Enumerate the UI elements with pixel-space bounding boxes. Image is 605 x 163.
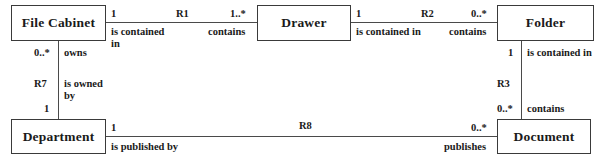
r7-relationship-label: R7 [34,78,47,90]
r8-right-multiplicity: 0..* [471,122,487,134]
r1-right-multiplicity: 1..* [230,8,246,20]
relationship-line-r8 [106,136,497,137]
entity-folder[interactable]: Folder [497,5,594,41]
r8-right-role: publishes [444,141,486,153]
r7-bottom-role: is owned by [64,78,114,101]
r8-left-role: is published by [111,141,178,153]
r2-right-multiplicity: 0..* [471,8,487,20]
r7-top-role: owns [64,47,87,59]
relationship-line-r7 [58,41,59,119]
r3-top-role: is contained in [527,47,592,59]
entity-file-cabinet[interactable]: File Cabinet [11,5,106,41]
r2-left-role: is contained in [356,26,421,38]
r3-bottom-multiplicity: 0..* [497,103,513,115]
r8-relationship-label: R8 [299,120,312,132]
r2-relationship-label: R2 [421,8,434,20]
r2-left-multiplicity: 1 [356,8,361,20]
relationship-line-r2 [351,22,497,23]
r1-right-role: contains [208,26,245,38]
entity-department[interactable]: Department [11,119,106,154]
r8-left-multiplicity: 1 [111,122,116,134]
r2-right-role: contains [449,26,486,38]
entity-document[interactable]: Document [497,119,591,154]
r1-relationship-label: R1 [176,8,189,20]
relationship-line-r1 [106,22,257,23]
er-diagram-canvas: File Cabinet Drawer Folder Department Do… [0,0,605,163]
r3-relationship-label: R3 [497,78,510,90]
relationship-line-r3 [521,41,522,119]
r7-bottom-multiplicity: 1 [44,103,49,115]
r1-left-role: is contained in [111,26,175,49]
entity-drawer[interactable]: Drawer [257,5,351,41]
r3-top-multiplicity: 1 [508,47,513,59]
r3-bottom-role: contains [527,103,564,115]
r1-left-multiplicity: 1 [111,8,116,20]
r7-top-multiplicity: 0..* [34,47,50,59]
